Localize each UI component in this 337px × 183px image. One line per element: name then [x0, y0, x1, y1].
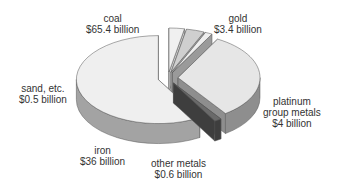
label-iron: iron $36 billion — [80, 145, 125, 167]
label-gold: gold $3.4 billion — [214, 13, 262, 35]
label-other-metals: other metals $0.6 billion — [151, 158, 206, 180]
label-iron-name: iron — [80, 145, 125, 156]
label-platinum-line2: group metals — [263, 107, 321, 118]
label-platinum-line1: platinum — [263, 96, 321, 107]
label-sand-value: $0.5 billion — [19, 94, 67, 105]
label-gold-value: $3.4 billion — [214, 24, 262, 35]
label-platinum: platinum group metals $4 billion — [263, 96, 321, 129]
label-coal-value: $65.4 billion — [86, 24, 139, 35]
label-other-name: other metals — [151, 158, 206, 169]
label-sand: sand, etc. $0.5 billion — [19, 83, 67, 105]
label-other-value: $0.6 billion — [151, 169, 206, 180]
label-platinum-value: $4 billion — [263, 118, 321, 129]
slice-side — [215, 119, 221, 141]
label-sand-name: sand, etc. — [19, 83, 67, 94]
label-coal: coal $65.4 billion — [86, 13, 139, 35]
label-gold-name: gold — [214, 13, 262, 24]
label-iron-value: $36 billion — [80, 156, 125, 167]
label-coal-name: coal — [86, 13, 139, 24]
